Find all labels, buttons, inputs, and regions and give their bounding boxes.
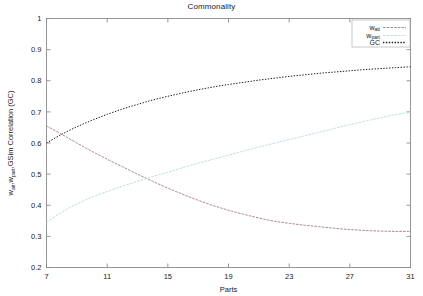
- y-tick-label: 0.6: [31, 139, 41, 148]
- x-tick-label: 23: [285, 272, 293, 281]
- chart-figure: Commonality 7111519232731 0.20.30.40.50.…: [0, 0, 423, 296]
- x-axis-title-text: Parts: [220, 285, 238, 294]
- x-tick-label: 19: [224, 272, 232, 281]
- x-tick-label: 7: [44, 272, 48, 281]
- x-tick-label: 15: [164, 272, 172, 281]
- chart-plot-area: 7111519232731 0.20.30.40.50.60.70.80.91 …: [0, 0, 423, 296]
- series-line-w_att: [47, 126, 411, 232]
- x-axis-title: Parts: [220, 285, 238, 294]
- y-tick-label: 1: [37, 14, 41, 23]
- x-tick-label: 27: [346, 272, 354, 281]
- y-tick-label: 0.9: [31, 45, 41, 54]
- x-tick-label: 11: [103, 272, 111, 281]
- y-tick-label: 0.5: [31, 170, 41, 179]
- y-tick-label: 0.4: [31, 201, 41, 210]
- y-axis-title: watt,wpart,GSim Correlation (GC): [6, 90, 16, 197]
- series-line-GC: [47, 67, 411, 143]
- y-tick-label: 0.2: [31, 263, 41, 272]
- data-series-group: [47, 67, 411, 232]
- series-line-w_part: [47, 112, 411, 222]
- x-axis-tick-labels: 7111519232731: [44, 272, 414, 281]
- y-tick-label: 0.7: [31, 108, 41, 117]
- y-tick-label: 0.8: [31, 76, 41, 85]
- y-axis-title-text: watt,wpart,GSim Correlation (GC): [6, 90, 16, 197]
- chart-legend: wattwpartGC: [352, 20, 410, 47]
- legend-label-GC: GC: [370, 39, 381, 46]
- y-axis-tick-labels: 0.20.30.40.50.60.70.80.91: [31, 14, 41, 272]
- y-tick-label: 0.3: [31, 232, 41, 241]
- x-tick-label: 31: [406, 272, 414, 281]
